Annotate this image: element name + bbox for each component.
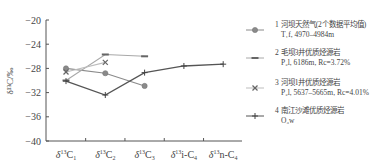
x-marker-icon xyxy=(244,83,266,93)
chart-series xyxy=(63,54,227,98)
x-tick-label: δ13C3 xyxy=(134,149,154,161)
y-axis-label: δ¹³C/‰ xyxy=(5,67,15,94)
y-tick-label: −32 xyxy=(25,87,41,98)
legend-label: 3 河坝1井优质烃源岩 xyxy=(275,78,340,87)
series-line xyxy=(66,54,145,80)
legend-label: 4 南江沙滩优质烃源岩 xyxy=(275,106,344,115)
circle-marker-icon xyxy=(252,27,257,32)
legend-label: 2 毛坝3井优质烃源岩 xyxy=(275,48,340,57)
dash-marker-icon xyxy=(244,53,266,63)
x-tick-label: δ13n-C4 xyxy=(209,149,238,161)
chart-legend: 1 河坝天然气(2个数据平均值)T₁f, 4970–4984m 2 毛坝3井优质… xyxy=(244,0,389,167)
y-tick-label: −40 xyxy=(25,136,41,147)
legend-label: 1 河坝天然气(2个数据平均值) xyxy=(275,20,366,29)
legend-sublabel: O₃w xyxy=(275,116,344,126)
circle-marker-icon xyxy=(103,71,108,76)
x-tick-label: δ13i-C4 xyxy=(171,149,197,161)
x-tick-label: δ13C1 xyxy=(56,149,76,161)
y-tick-label: −36 xyxy=(25,111,41,122)
y-tick-label: −24 xyxy=(25,39,41,50)
plus-marker-icon xyxy=(244,111,266,121)
chart-axes: −20−24−28−32−36−40δ13C1δ13C2δ13C3δ13i-C4… xyxy=(5,15,242,162)
y-tick-label: −20 xyxy=(25,15,41,26)
legend-sublabel: T₁f, 4970–4984m xyxy=(275,30,366,40)
series-line xyxy=(66,64,223,95)
circle-marker-icon xyxy=(142,83,147,88)
legend-sublabel: P₂l, 6186m, Rc=3.72% xyxy=(275,58,350,68)
circle-marker-icon xyxy=(244,25,266,35)
y-tick-label: −28 xyxy=(25,63,41,74)
legend-sublabel: P₂l, 5637–5665m, Rc=4.01% xyxy=(275,88,369,98)
data-series xyxy=(63,54,149,80)
x-tick-label: δ13C2 xyxy=(95,149,115,161)
